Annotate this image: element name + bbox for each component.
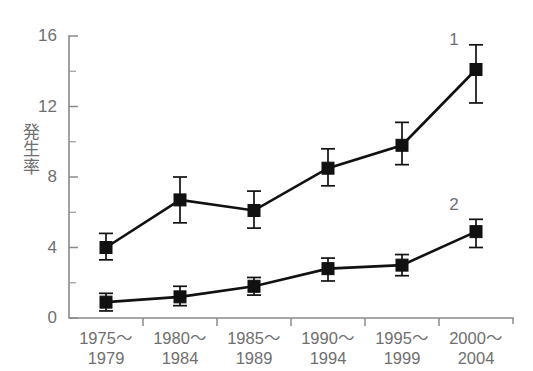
- data-point-marker: [100, 242, 112, 254]
- y-tick-label: 8: [48, 167, 57, 186]
- data-point-marker: [396, 139, 408, 151]
- y-tick-label: 12: [38, 97, 57, 116]
- x-tick-label: 1980〜1984: [153, 329, 207, 367]
- x-tick-label: 1975〜1979: [79, 329, 133, 367]
- series-label-2: 2: [449, 195, 458, 214]
- y-tick-label: 4: [48, 238, 57, 257]
- data-series-layer: [99, 45, 483, 311]
- x-tick-label: 1985〜1989: [227, 329, 281, 367]
- data-point-marker: [248, 204, 260, 216]
- chart-figure: 発生率 0481216 1975〜19791980〜19841985〜19891…: [0, 0, 533, 371]
- data-point-marker: [396, 259, 408, 271]
- chart-axes: [69, 36, 513, 324]
- y-axis-tick-labels: 0481216: [38, 26, 57, 327]
- series-2: [99, 219, 483, 311]
- series-annotations: 12: [449, 30, 458, 215]
- series-line: [106, 232, 476, 303]
- data-point-marker: [322, 263, 334, 275]
- series-label-1: 1: [449, 30, 458, 49]
- x-axis-tick-labels: 1975〜19791980〜19841985〜19891990〜19941995…: [79, 329, 503, 367]
- y-tick-label: 0: [48, 308, 57, 327]
- data-point-marker: [174, 291, 186, 303]
- y-tick-label: 16: [38, 26, 57, 45]
- axis-lines: [69, 36, 513, 318]
- series-1: [99, 45, 483, 260]
- series-line: [106, 69, 476, 247]
- x-axis-ticks: [143, 318, 439, 326]
- data-point-marker: [470, 226, 482, 238]
- data-point-marker: [100, 296, 112, 308]
- x-tick-label: 1995〜1999: [375, 329, 429, 367]
- data-point-marker: [248, 280, 260, 292]
- x-tick-label: 2000〜2004: [449, 329, 503, 367]
- line-chart-plot: 0481216 1975〜19791980〜19841985〜19891990〜…: [0, 0, 533, 371]
- data-point-marker: [470, 63, 482, 75]
- y-axis-ticks: [69, 36, 78, 318]
- data-point-marker: [322, 162, 334, 174]
- data-point-marker: [174, 194, 186, 206]
- x-tick-label: 1990〜1994: [301, 329, 355, 367]
